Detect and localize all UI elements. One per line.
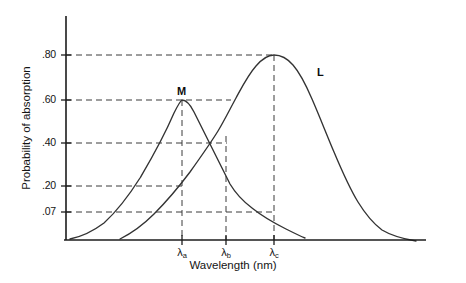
- curve-l: [120, 55, 416, 241]
- x-tick-label-lambda-a: λa: [167, 246, 197, 260]
- chart-plot-area: [0, 0, 466, 283]
- gridlines-group: [66, 55, 275, 212]
- curve-m: [70, 100, 305, 239]
- axes-group: [64, 16, 426, 240]
- x-tick-label-lambda-c: λc: [259, 246, 289, 260]
- curve-label-l: L: [317, 66, 324, 78]
- x-tick-label-lambda-b: λb: [211, 246, 241, 260]
- curve-label-m: M: [177, 85, 186, 97]
- y-axis-title: Probability of absorption: [20, 48, 32, 208]
- absorption-probability-chart: .80 .60 .40 .20 .07 λa λb λc M L Wavelen…: [0, 0, 466, 283]
- x-axis-title: Wavelength (nm): [0, 259, 466, 271]
